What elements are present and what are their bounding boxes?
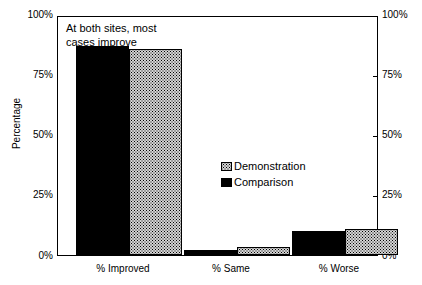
y-axis-left: 100% 75% 50% 25% 0% Percentage — [0, 0, 53, 285]
x-axis-category-label: % Improved — [68, 263, 178, 274]
y-axis-right-tickmark — [373, 76, 377, 77]
bar-comparison-same — [184, 250, 237, 255]
bar-demonstration-same — [237, 247, 290, 255]
legend-item-demonstration: Demonstration — [221, 159, 306, 173]
legend-label-demonstration: Demonstration — [234, 159, 306, 173]
y-axis-right-tick-label: 100% — [382, 10, 422, 20]
bar-chart: 100% 75% 50% 25% 0% Percentage 100% 75% … — [0, 0, 422, 285]
x-axis-category-label: % Same — [176, 263, 286, 274]
chart-annotation: At both sites, most cases improve — [66, 21, 216, 49]
legend-swatch-comparison-icon — [221, 178, 232, 187]
chart-legend: Demonstration Comparison — [221, 159, 306, 191]
x-axis-category-label: % Worse — [284, 263, 394, 274]
y-axis-right-tickmark — [373, 136, 377, 137]
bar-comparison-worse — [292, 231, 345, 255]
legend-item-comparison: Comparison — [221, 175, 306, 189]
bar-demonstration-worse — [345, 229, 398, 255]
y-axis-left-tick-label: 75% — [1, 70, 53, 80]
y-axis-right-tick-label: 50% — [382, 130, 422, 140]
y-axis-left-tick-label: 25% — [1, 190, 53, 200]
y-axis-left-tick-label: 50% — [1, 130, 53, 140]
bar-comparison-improved — [76, 46, 129, 255]
bar-demonstration-improved — [129, 49, 182, 255]
y-axis-title: Percentage — [11, 84, 22, 164]
legend-swatch-demonstration-icon — [221, 162, 232, 171]
y-axis-right-tick-label: 25% — [382, 190, 422, 200]
legend-label-comparison: Comparison — [234, 175, 293, 189]
plot-area: At both sites, most cases improve Demons… — [57, 16, 378, 256]
y-axis-right-tick-label: 75% — [382, 70, 422, 80]
y-axis-left-tick-label: 100% — [1, 10, 53, 20]
y-axis-right-tickmark — [373, 196, 377, 197]
y-axis-left-tick-label: 0% — [1, 251, 53, 261]
